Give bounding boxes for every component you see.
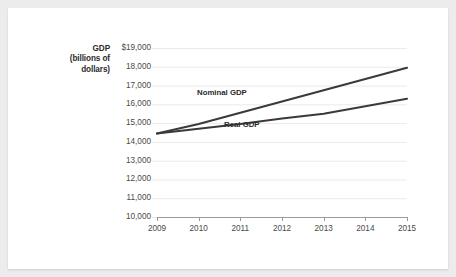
x-tick-label: 2015 [387, 224, 427, 233]
x-tick-label: 2014 [345, 224, 385, 233]
y-tick-label: $19,000 [105, 43, 151, 52]
y-tick-label: 12,000 [105, 174, 151, 183]
series-label-nominal-gdp: Nominal GDP [197, 88, 247, 97]
y-tick-label: 18,000 [105, 62, 151, 71]
y-tick-label: 17,000 [105, 81, 151, 90]
y-tick-label: 13,000 [105, 156, 151, 165]
series-label-real-gdp: Real GDP [224, 120, 260, 129]
x-tick-label: 2010 [179, 224, 219, 233]
y-tick-label: 16,000 [105, 99, 151, 108]
x-tick-label: 2012 [262, 224, 302, 233]
x-tick-label: 2009 [137, 224, 177, 233]
x-tick-label: 2011 [220, 224, 260, 233]
y-tick-label: 15,000 [105, 118, 151, 127]
x-tick-label: 2013 [304, 224, 344, 233]
series-line-real-gdp [157, 99, 407, 134]
chart-figure: GDP (billions of dollars) Nominal GDP Re… [8, 8, 448, 269]
y-tick-label: 14,000 [105, 137, 151, 146]
y-tick-label: 10,000 [105, 212, 151, 221]
y-tick-label: 11,000 [105, 193, 151, 202]
